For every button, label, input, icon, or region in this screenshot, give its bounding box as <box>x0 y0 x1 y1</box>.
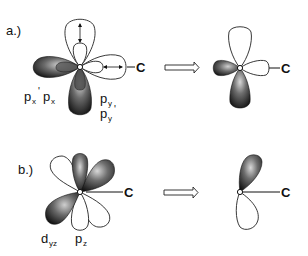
svg-text:x: x <box>32 97 36 106</box>
b-carbon-label: C <box>124 185 134 200</box>
panel-a-label: a.) <box>6 23 21 38</box>
result-b-lower-lobe <box>236 192 258 229</box>
orbital-diagram: a.) C <box>0 0 308 256</box>
result-nucleus <box>237 65 242 70</box>
svg-text:p: p <box>24 89 31 104</box>
panel-a: a.) C <box>6 19 291 123</box>
svg-text:x: x <box>51 97 55 106</box>
panel-a-left-orbitals: C p x ' p x p y <box>24 19 146 123</box>
panel-b-left-orbitals: C d yz p z <box>41 154 134 249</box>
panel-a-transform-arrow <box>165 62 199 73</box>
label-dyz: d yz <box>41 231 57 248</box>
nucleus <box>77 64 82 69</box>
label-pz: p z <box>75 231 87 248</box>
b-nucleus <box>77 189 82 194</box>
panel-b-transform-arrow <box>164 187 198 198</box>
svg-text:': ' <box>38 86 40 97</box>
label-px-prime: p x ' <box>24 86 40 106</box>
panel-b: b.) C d yz p z <box>18 154 291 249</box>
panel-b-right-orbitals: C <box>236 155 291 230</box>
panel-a-right-orbitals: C <box>213 27 291 108</box>
svg-text:p: p <box>100 91 107 106</box>
svg-text:p: p <box>43 89 50 104</box>
result-b-nucleus <box>237 189 242 194</box>
panel-b-label: b.) <box>18 162 33 177</box>
px-left-inner-lobe <box>56 62 80 72</box>
svg-text:y: y <box>108 99 112 108</box>
svg-text:p: p <box>75 231 82 246</box>
result-b-carbon-label: C <box>281 185 291 200</box>
svg-text:d: d <box>41 231 48 246</box>
result-carbon-label: C <box>281 61 291 76</box>
svg-text:': ' <box>114 104 116 115</box>
svg-text:yz: yz <box>49 239 57 248</box>
label-px: p x <box>43 89 55 106</box>
result-right-lobe <box>240 60 269 75</box>
carbon-label: C <box>136 60 146 75</box>
result-bottom-lobe <box>230 68 250 108</box>
svg-text:p: p <box>100 106 107 121</box>
result-b-upper-lobe <box>239 155 262 192</box>
result-top-lobe <box>229 27 252 68</box>
svg-text:y: y <box>108 114 112 123</box>
py-bottom-inner-lobe <box>75 67 86 90</box>
svg-text:z: z <box>83 239 87 248</box>
